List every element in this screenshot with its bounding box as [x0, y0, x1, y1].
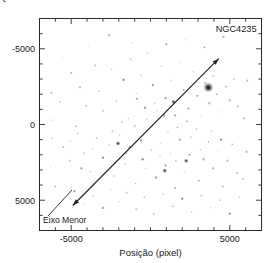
scatter-point [140, 139, 142, 141]
plot-frame [40, 19, 262, 231]
scatter-point [179, 62, 180, 63]
scatter-point [198, 180, 200, 182]
scatter-point [54, 186, 56, 188]
scatter-point [219, 199, 221, 201]
scatter-point [110, 189, 111, 190]
minor-axis-arrow [73, 59, 219, 206]
scatter-point [196, 128, 198, 130]
scale-bar-label: 20' [0, 0, 6, 2]
minor-axis-label: Eixo Menor [43, 215, 87, 225]
x-axis-label: Posição (pixel) [119, 247, 181, 258]
scatter-point [152, 84, 154, 86]
scatter-point [143, 196, 144, 197]
scatter-points-layer [50, 34, 248, 215]
scatter-point [187, 107, 189, 109]
scatter-point [172, 205, 174, 207]
scatter-point [136, 98, 138, 100]
scatter-point [147, 53, 148, 54]
scatter-point [245, 151, 247, 153]
scatter-point [194, 145, 195, 146]
scatter-point [174, 187, 176, 189]
scatter-point [128, 118, 129, 119]
y-tick-label-pos5000: 5000 [15, 196, 35, 206]
scatter-point [175, 160, 177, 162]
scatter-point [221, 111, 222, 112]
scatter-point [126, 192, 128, 194]
scatter-point [204, 46, 206, 48]
scatter-point [237, 105, 239, 107]
scatter-plot-svg: -5000 5000 -5000 0 5000 Posição (pixel) … [0, 0, 269, 263]
scatter-point [70, 72, 72, 74]
scatter-point [217, 150, 218, 151]
y-tick-label-zero: 0 [30, 120, 35, 130]
scatter-point [155, 176, 157, 178]
scatter-point [98, 90, 99, 91]
scatter-point [183, 89, 185, 91]
scatter-point [243, 118, 245, 120]
bright-scatter-point [116, 142, 120, 146]
scatter-point [111, 130, 113, 132]
scatter-point [165, 43, 167, 45]
scatter-point [220, 138, 222, 140]
scatter-point [210, 207, 211, 208]
scatter-point [196, 95, 198, 97]
scatter-point [226, 160, 228, 162]
bright-scatter-point [163, 169, 167, 173]
scatter-point [108, 34, 110, 36]
scatter-point [201, 115, 202, 116]
scatter-point [229, 99, 231, 101]
bright-scatter-point [184, 159, 188, 163]
x-tick-label-pos5000: 5000 [220, 234, 240, 244]
axis-ticks-layer [40, 19, 262, 231]
scatter-point [236, 172, 238, 174]
scatter-point [102, 207, 104, 209]
scatter-point [216, 93, 218, 95]
scatter-point [161, 65, 163, 67]
scatter-point [200, 195, 202, 197]
scatter-point [208, 102, 210, 104]
scatter-point [184, 171, 185, 172]
scatter-point [135, 183, 136, 184]
scatter-point [111, 69, 112, 70]
scatter-point [93, 195, 95, 197]
scatter-point [141, 158, 143, 160]
scatter-point [190, 136, 192, 138]
scatter-point [50, 91, 52, 93]
scatter-point [181, 197, 183, 199]
scatter-point [222, 186, 224, 188]
scatter-point [83, 152, 85, 154]
scatter-point [119, 135, 120, 136]
bllac-marker [204, 83, 214, 93]
scatter-point [212, 75, 213, 76]
scatter-point [212, 167, 214, 169]
scatter-point [122, 79, 124, 81]
scatter-point [77, 133, 78, 134]
scatter-point [62, 146, 64, 148]
scatter-point [165, 164, 167, 166]
scatter-point [222, 35, 224, 37]
scatter-point [200, 149, 201, 150]
scatter-point [140, 74, 142, 76]
scatter-point [133, 125, 135, 127]
scatter-point [159, 156, 160, 157]
scatter-point [191, 212, 192, 213]
scatter-point [157, 110, 158, 111]
scatter-point [59, 101, 60, 102]
scatter-point [229, 213, 231, 215]
scatter-point [130, 58, 132, 60]
scatter-point [79, 86, 81, 88]
scatter-point [243, 178, 244, 179]
scatter-point [92, 148, 93, 149]
scale-bar: 20' [0, 0, 6, 2]
scatter-point [170, 80, 171, 81]
scatter-point [126, 153, 127, 154]
scatter-point [150, 149, 152, 151]
scatter-point [179, 138, 181, 140]
scatter-point [52, 119, 53, 120]
scatter-point [146, 118, 147, 119]
scatter-point [121, 122, 122, 123]
scatter-point [163, 194, 164, 195]
scatter-point [145, 168, 146, 169]
scatter-point [75, 125, 77, 127]
scatter-point [88, 45, 89, 46]
